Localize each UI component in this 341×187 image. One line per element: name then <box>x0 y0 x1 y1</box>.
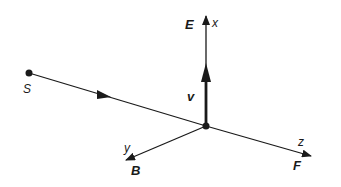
velocity-label: v <box>187 89 195 104</box>
b-vector-label: B <box>131 163 140 178</box>
vector-diagram: S E x v y B z F <box>0 0 341 187</box>
source-label: S <box>23 82 31 96</box>
source-point <box>26 70 33 77</box>
origin-point <box>203 123 210 130</box>
velocity-arrowhead-icon <box>201 63 211 82</box>
direction-arrow-icon <box>97 90 111 99</box>
trajectory-line <box>29 73 206 126</box>
z-axis-label: z <box>297 135 304 149</box>
f-vector-label: F <box>293 158 302 173</box>
x-axis-label: x <box>211 16 219 30</box>
y-axis <box>126 126 206 160</box>
z-axis <box>206 126 311 156</box>
y-axis-label: y <box>123 141 131 155</box>
velocity-vector <box>201 63 211 126</box>
e-vector-label: E <box>185 17 194 32</box>
